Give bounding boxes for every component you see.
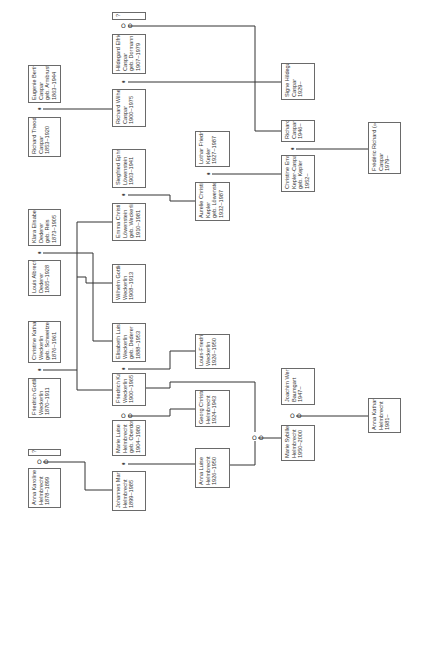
person-box-maria-sybille: Marie Sybille Helmbrecht 1950–2000	[281, 425, 315, 461]
marriage-rings-icon: ⚭	[121, 366, 126, 372]
person-box-siegfried: Siegfried Ephraim Löwenstein 1903–1941	[112, 149, 146, 188]
marriage-rings-icon: ⚭	[37, 367, 42, 373]
person-box-christine-emma: Christine Emma Kepler-Caspar geb. Kepler…	[281, 155, 315, 192]
marriage-rings-icon: ⚭	[206, 171, 211, 177]
person-box-signe: Signe Hildegard Caspar 1929–	[281, 63, 315, 100]
person-label: Anna Karoline Helmbrecht 1878–1899	[31, 471, 58, 505]
person-box-aurelie: Aurelie Christine Kepler geb. Löwenstein…	[195, 182, 230, 221]
person-label: Hildegard Elfriede Caspar geb. Dormann 1…	[115, 37, 143, 71]
person-box-georg: Georg Christoph Helmbrecht 1924–1943	[195, 390, 230, 427]
family-tree-canvas: ?Hildegard Elfriede Caspar geb. Dormann …	[0, 0, 421, 663]
person-label: Richard Caspar 1946–	[284, 123, 312, 139]
person-box-hildegard: Hildegard Elfriede Caspar geb. Dormann 1…	[112, 34, 146, 74]
person-label: Christine Emma Kepler-Caspar geb. Kepler…	[284, 158, 312, 189]
person-box-johannes: Johannes Martin Helmbrecht 1899–1985	[112, 471, 146, 511]
person-label: Aurelie Christine Kepler geb. Löwenstein…	[198, 185, 227, 218]
person-box-richard-theodor: Richard Theodor Caspar 1853–1920	[28, 117, 61, 157]
partnership-circles-icon: O O	[252, 435, 263, 441]
partnership-circles-icon: O O	[121, 23, 132, 29]
person-label: Signe Hildegard Caspar 1929–	[284, 66, 312, 97]
person-box-eugenie: Eugenie Bertha Caspar geb. Armbruster 18…	[28, 65, 61, 103]
person-label: Louis Albrecht Dederer 1865–1928	[31, 263, 58, 293]
person-box-lothar: Lothar Friedrich Kepler 1927–1987	[195, 131, 230, 167]
person-box-joachim: Joachim Werner Baumgart 1947–	[281, 368, 315, 405]
marriage-rings-icon: ⚭	[121, 461, 126, 467]
connector-c-anna-luise-to-marker	[230, 441, 255, 465]
person-box-christine-katharina: Christine Katharina Weckerlin geb. Schwe…	[28, 321, 61, 363]
person-label: Joachim Werner Baumgart 1947–	[284, 371, 312, 402]
connector-c-siegfried-emma-aurelie	[128, 195, 195, 201]
person-label: Emma Christine Löwenstein geb. Weckerlin…	[115, 206, 143, 238]
person-label: Siegfried Ephraim Löwenstein 1903–1941	[115, 152, 143, 185]
person-box-emma-christine: Emma Christine Löwenstein geb. Weckerlin…	[112, 203, 146, 241]
person-box-marie-luise: Marie Luise Helmbrecht geb. Oberdorfer 1…	[112, 420, 146, 456]
person-label: Klara Elisabeth Dederer geb. Reis 1873–1…	[31, 212, 58, 243]
partnership-circles-icon: O O	[121, 413, 132, 419]
person-label: Richard Wilhelm Caspar 1900–1975	[115, 92, 143, 124]
person-box-louis-friedrich: Louis-Friedrich Weckerlin 1926–1950	[195, 334, 230, 369]
person-label: Georg Christoph Helmbrecht 1924–1943	[198, 393, 227, 424]
person-label: Christine Katharina Weckerlin geb. Schwe…	[31, 324, 58, 360]
person-box-friedrich-karl: Friedrich Karl Weckerlin 1900–1965	[112, 373, 146, 406]
person-box-anna-karoline: Anna Karoline Helmbrecht 1878–1899	[28, 468, 61, 508]
person-label: Marie Sybille Helmbrecht 1950–2000	[284, 428, 312, 458]
partnership-circles-icon: O O	[37, 459, 48, 465]
person-label: Anna Luise Helmbrecht 1926–1950	[198, 451, 227, 485]
person-box-klara: Klara Elisabeth Dederer geb. Reis 1873–1…	[28, 209, 61, 246]
marriage-rings-icon: ⚭	[290, 146, 295, 152]
marriage-rings-icon: ⚭	[37, 106, 42, 112]
connector-c-hild-unknown-richard	[128, 26, 281, 131]
person-label: Friedrich Karl Weckerlin 1900–1965	[115, 376, 143, 403]
person-label: Anna Katharina Helmbrecht 1981–	[371, 401, 398, 430]
person-box-unknown-top: ?	[112, 12, 146, 20]
person-label: Louis-Friedrich Weckerlin 1926–1950	[198, 337, 227, 366]
person-label: Wilhelm Gottlieb Weckerlin 1908–1913	[115, 267, 143, 300]
person-label: Johannes Martin Helmbrecht 1899–1985	[115, 474, 143, 508]
person-label: Lothar Friedrich Kepler 1927–1987	[198, 134, 227, 164]
connector-lines	[0, 0, 421, 663]
person-label: ?	[31, 452, 58, 453]
person-label: Elisabeth Luise Weckerlin geb. Dederer 1…	[115, 326, 143, 359]
partnership-circles-icon: O O	[290, 413, 301, 419]
person-box-louis-albrecht: Louis Albrecht Dederer 1865–1928	[28, 260, 61, 296]
person-box-friedrich-gottlieb: Friedrich Gottlieb Weckerlin 1870–1911	[28, 378, 61, 418]
person-label: Frédéric Richard (»Fritz«) Caspar 1979–	[371, 125, 398, 171]
person-label: Eugenie Bertha Caspar geb. Armbruster 18…	[31, 68, 58, 100]
person-box-elisabeth-luise: Elisabeth Luise Weckerlin geb. Dederer 1…	[112, 323, 146, 362]
person-box-anna-luise: Anna Luise Helmbrecht 1926–1950	[195, 448, 230, 488]
marriage-rings-icon: ⚭	[37, 250, 42, 256]
person-box-frederic: Frédéric Richard (»Fritz«) Caspar 1979–	[368, 122, 401, 174]
person-label: Friedrich Gottlieb Weckerlin 1870–1911	[31, 381, 58, 415]
person-box-richard-caspar: Richard Caspar 1946–	[281, 120, 315, 142]
connector-c-spine-wilhelm	[77, 277, 112, 283]
person-label: ?	[115, 15, 143, 17]
connector-c-karl-marie-georg	[128, 409, 195, 416]
person-box-anna-katharina: Anna Katharina Helmbrecht 1981–	[368, 398, 401, 433]
marriage-rings-icon: ⚭	[121, 192, 126, 198]
person-label: Marie Luise Helmbrecht geb. Oberdorfer 1…	[115, 423, 143, 453]
marriage-rings-icon: ⚭	[121, 79, 126, 85]
person-box-wilhelm: Wilhelm Gottlieb Weckerlin 1908–1913	[112, 264, 146, 303]
person-label: Richard Theodor Caspar 1853–1920	[31, 120, 58, 154]
person-box-richard-wilhelm: Richard Wilhelm Caspar 1900–1975	[112, 89, 146, 127]
person-box-unknown-bottom: ?	[28, 449, 61, 456]
